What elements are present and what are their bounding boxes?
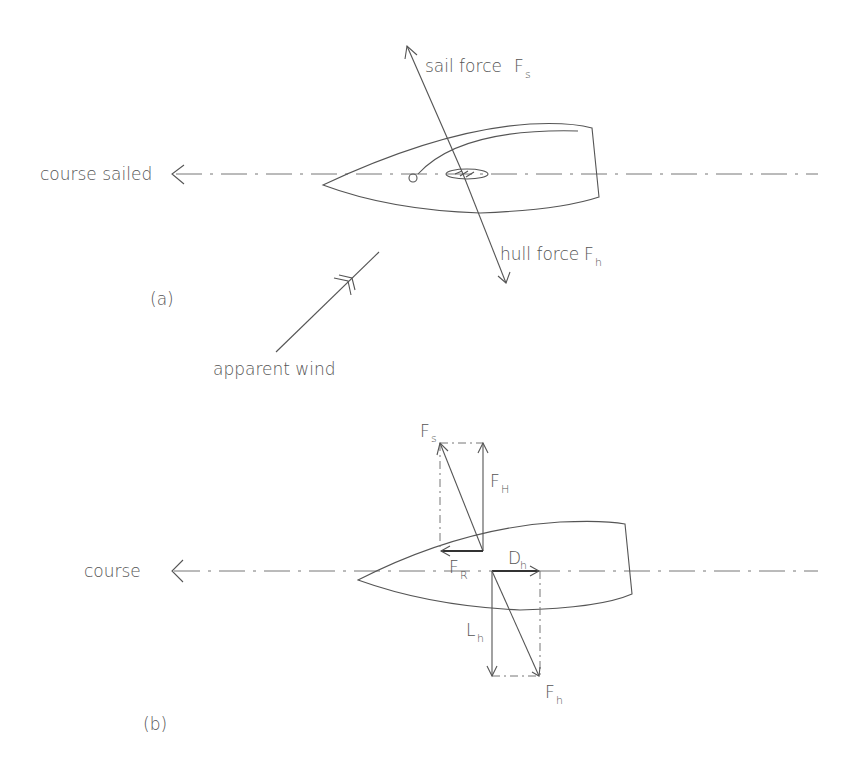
- hull-force-label: hull force: [500, 244, 579, 264]
- fh-heel-symbol: F: [490, 471, 500, 491]
- sail-curve: [418, 131, 578, 174]
- sail-force-subscript: s: [525, 68, 531, 81]
- part-a-label: (a): [150, 289, 174, 309]
- course-sailed-label: course sailed: [40, 164, 152, 184]
- fr-symbol: F: [449, 557, 459, 577]
- fr-subscript: R: [460, 569, 468, 582]
- sailing-forces-diagram: course sailed sail force F s hull force …: [0, 0, 850, 761]
- hull-outline-b: [358, 521, 632, 610]
- part-b-label: (b): [143, 714, 167, 734]
- hull-force-symbol: F: [584, 244, 594, 264]
- fs-symbol: F: [420, 421, 430, 441]
- mast-icon: [409, 174, 417, 182]
- course-label: course: [84, 561, 141, 581]
- fh-hull-subscript: h: [556, 694, 563, 707]
- dh-subscript: h: [520, 559, 527, 572]
- fs-subscript: s: [431, 432, 437, 445]
- hull-force-subscript: h: [595, 256, 602, 269]
- part-a: course sailed sail force F s hull force …: [40, 46, 818, 379]
- lh-symbol: L: [466, 620, 475, 640]
- apparent-wind-label: apparent wind: [213, 359, 336, 379]
- sail-force-label: sail force: [425, 56, 502, 76]
- fh-hull-symbol: F: [545, 682, 555, 702]
- sail-force-arrowhead-icon: [405, 46, 417, 59]
- lh-subscript: h: [477, 632, 484, 645]
- part-b: course F s F H F R D h L: [84, 421, 818, 734]
- fh-heel-subscript: H: [501, 483, 509, 496]
- hull-force-arrow: [463, 174, 506, 283]
- fs-vector: [440, 443, 483, 551]
- fh-hull-vector: [492, 571, 539, 676]
- sail-force-symbol: F: [514, 56, 524, 76]
- apparent-wind-line: [276, 252, 379, 352]
